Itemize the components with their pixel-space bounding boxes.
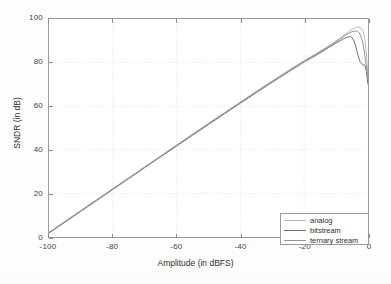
- x-tick-label: -40: [224, 242, 258, 251]
- x-tick-mark: [369, 234, 370, 238]
- plot-area: [48, 18, 369, 238]
- data-curves: [49, 19, 368, 237]
- x-tick-mark-top: [241, 19, 242, 23]
- y-axis-title: SNDR (in dB): [12, 68, 22, 178]
- y-tick-label: 100: [13, 13, 43, 22]
- x-tick-mark: [241, 234, 242, 238]
- legend-item[interactable]: bitstream: [284, 226, 368, 235]
- y-tick-label: 20: [13, 189, 43, 198]
- y-tick-mark: [49, 62, 53, 63]
- y-tick-mark: [49, 150, 53, 151]
- x-tick-mark-top: [48, 19, 49, 23]
- legend-item[interactable]: analog: [284, 216, 368, 225]
- series-line: [49, 37, 368, 233]
- figure-bottom-margin: [0, 272, 391, 284]
- x-tick-mark-top: [112, 19, 113, 23]
- x-tick-mark: [176, 234, 177, 238]
- y-tick-label: 0: [13, 233, 43, 242]
- legend-item[interactable]: ternary stream: [284, 236, 368, 245]
- series-line: [49, 27, 368, 232]
- x-axis-title: Amplitude (in dBFS): [0, 258, 391, 268]
- legend-label: bitstream: [310, 226, 341, 235]
- x-tick-mark: [112, 234, 113, 238]
- legend-label: ternary stream: [310, 236, 358, 245]
- legend-swatch-icon: [284, 230, 306, 231]
- y-tick-mark: [49, 194, 53, 195]
- y-tick-mark: [49, 106, 53, 107]
- legend-label: analog: [310, 216, 333, 225]
- x-tick-label: -60: [159, 242, 193, 251]
- x-tick-mark-top: [369, 19, 370, 23]
- y-tick-mark: [49, 18, 53, 19]
- x-tick-mark: [48, 234, 49, 238]
- x-tick-label: -80: [95, 242, 129, 251]
- chart-legend[interactable]: analogbitstreamternary stream: [280, 213, 369, 245]
- x-tick-label: -100: [31, 242, 65, 251]
- y-tick-label: 80: [13, 57, 43, 66]
- legend-swatch-icon: [284, 240, 306, 241]
- legend-swatch-icon: [284, 220, 306, 221]
- x-tick-mark-top: [305, 19, 306, 23]
- y-tick-mark: [49, 238, 53, 239]
- x-tick-mark-top: [176, 19, 177, 23]
- series-line: [49, 31, 368, 233]
- chart-figure: 020406080100-100-80-60-40-200 Amplitude …: [0, 0, 391, 284]
